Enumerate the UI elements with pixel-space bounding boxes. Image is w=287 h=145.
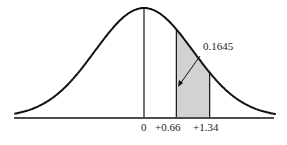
normal-distribution-chart: 0.1645 0 +0.66 +1.34: [0, 0, 287, 145]
area-annotation: 0.1645: [203, 40, 234, 52]
tick-label-2: +1.34: [193, 121, 219, 133]
chart-canvas: 0.1645 0 +0.66 +1.34: [0, 0, 287, 145]
tick-label-1: +0.66: [155, 121, 181, 133]
bell-curve: [14, 8, 276, 114]
tick-label-0: 0: [141, 121, 147, 133]
